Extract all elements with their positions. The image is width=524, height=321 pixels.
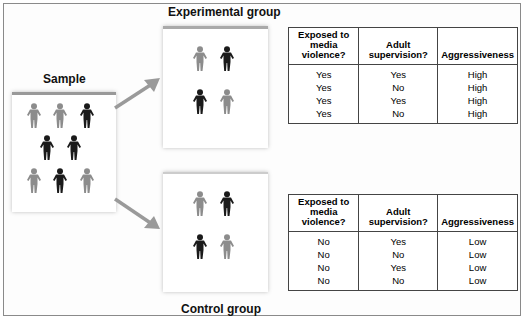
- control-group-label: Control group: [181, 302, 261, 316]
- cell: Low: [438, 231, 518, 248]
- cell: Low: [438, 261, 518, 274]
- child-figure-icon: [220, 191, 234, 217]
- cell: High: [438, 64, 518, 81]
- table-row: NoYesLow: [289, 261, 518, 274]
- arrow-to-experimental-icon: [112, 76, 162, 112]
- table-row: YesNoHigh: [289, 107, 518, 124]
- experimental-results-table: Exposed to media violence? Adult supervi…: [288, 27, 518, 124]
- sample-label: Sample: [43, 72, 86, 86]
- child-figure-icon: [67, 135, 81, 161]
- cell: Yes: [359, 261, 438, 274]
- child-figure-icon: [193, 191, 207, 217]
- child-figure-icon: [193, 234, 207, 260]
- child-figure-icon: [27, 103, 41, 129]
- cell: No: [359, 81, 438, 94]
- cell: Yes: [359, 94, 438, 107]
- table-row: YesYesHigh: [289, 94, 518, 107]
- child-figure-icon: [40, 135, 54, 161]
- experimental-group-label: Experimental group: [168, 5, 281, 19]
- child-figure-icon: [80, 168, 94, 194]
- experimental-group-panel: [163, 26, 268, 148]
- cell: Yes: [359, 64, 438, 81]
- child-figure-icon: [27, 168, 41, 194]
- child-figure-icon: [220, 46, 234, 72]
- table-row: NoNoLow: [289, 248, 518, 261]
- column-header: Adult supervision?: [359, 195, 438, 232]
- child-figure-icon: [53, 103, 67, 129]
- column-header: Aggressiveness: [438, 195, 518, 232]
- table-row: NoYesLow: [289, 231, 518, 248]
- child-figure-icon: [53, 168, 67, 194]
- cell: High: [438, 81, 518, 94]
- cell: No: [289, 231, 359, 248]
- child-figure-icon: [193, 89, 207, 115]
- child-figure-icon: [220, 89, 234, 115]
- child-figure-icon: [220, 234, 234, 260]
- cell: High: [438, 107, 518, 124]
- column-header: Adult supervision?: [359, 28, 438, 65]
- table-row: YesNoHigh: [289, 81, 518, 94]
- control-results-table: Exposed to media violence? Adult supervi…: [288, 194, 518, 291]
- cell: Yes: [359, 231, 438, 248]
- control-group-panel: [163, 172, 268, 292]
- column-header: Aggressiveness: [438, 28, 518, 65]
- column-header: Exposed to media violence?: [289, 28, 359, 65]
- cell: Low: [438, 248, 518, 261]
- cell: Yes: [289, 81, 359, 94]
- table-row: NoNoLow: [289, 274, 518, 291]
- cell: No: [359, 274, 438, 291]
- cell: Low: [438, 274, 518, 291]
- cell: No: [359, 248, 438, 261]
- cell: No: [289, 274, 359, 291]
- arrow-to-control-icon: [112, 196, 162, 232]
- cell: No: [289, 248, 359, 261]
- cell: No: [359, 107, 438, 124]
- child-figure-icon: [80, 103, 94, 129]
- cell: Yes: [289, 94, 359, 107]
- table-row: YesYesHigh: [289, 64, 518, 81]
- column-header: Exposed to media violence?: [289, 195, 359, 232]
- cell: Yes: [289, 64, 359, 81]
- cell: High: [438, 94, 518, 107]
- child-figure-icon: [193, 46, 207, 72]
- cell: Yes: [289, 107, 359, 124]
- cell: No: [289, 261, 359, 274]
